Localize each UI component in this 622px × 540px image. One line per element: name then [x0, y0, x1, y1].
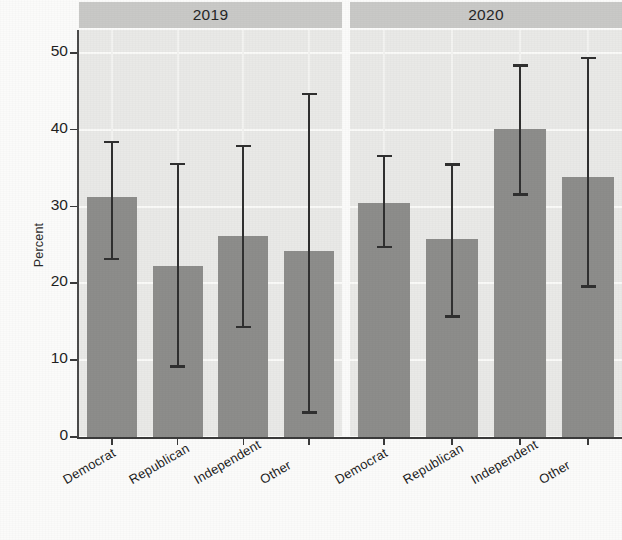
gridline-horizontal: [350, 52, 622, 54]
x-tick-mark: [111, 439, 113, 445]
x-category-label: Other: [536, 457, 573, 487]
y-tick-mark: [70, 436, 77, 438]
y-tick-label: 20: [22, 272, 68, 290]
error-bar-line: [242, 146, 244, 327]
y-tick-mark: [70, 129, 77, 131]
facet-panel-2019: [79, 30, 342, 438]
figure-panel-bar-chart: Percent 01020304050 20192020 DemocratRep…: [0, 0, 622, 540]
error-bar-line: [587, 58, 589, 287]
x-axis-line: [77, 437, 622, 439]
gridline-horizontal: [79, 52, 342, 54]
error-bar-line: [177, 164, 179, 367]
facet-strip-label-2020: 2020: [350, 2, 622, 28]
x-category-label: Independent: [192, 437, 264, 487]
error-bar-cap-lower: [236, 326, 251, 328]
error-bar-cap-upper: [581, 57, 596, 59]
error-bar-cap-lower: [445, 315, 460, 317]
error-bar-cap-upper: [236, 145, 251, 147]
error-bar-cap-upper: [170, 163, 185, 165]
facet-strip-label-2019: 2019: [79, 2, 342, 28]
error-bar-cap-upper: [104, 141, 119, 143]
error-bar-cap-lower: [104, 258, 119, 260]
error-bar-cap-lower: [377, 246, 392, 248]
x-category-label: Other: [257, 457, 294, 487]
y-tick-mark: [70, 206, 77, 208]
y-tick-label: 0: [22, 426, 68, 444]
x-tick-mark: [587, 439, 589, 445]
error-bar-line: [308, 94, 310, 413]
y-tick-label: 50: [22, 42, 68, 60]
gridline-horizontal: [350, 129, 622, 131]
error-bar-cap-upper: [377, 155, 392, 157]
gridline-horizontal: [79, 129, 342, 131]
x-category-label: Republican: [126, 440, 192, 487]
error-bar-cap-lower: [513, 193, 528, 195]
error-bar-line: [519, 65, 521, 194]
y-tick-label: 10: [22, 349, 68, 367]
x-tick-mark: [383, 439, 385, 445]
x-category-label: Independent: [468, 437, 540, 487]
y-tick-label: 40: [22, 119, 68, 137]
error-bar-line: [383, 156, 385, 247]
clipped-header-text: [470, 0, 610, 5]
error-bar-line: [451, 164, 453, 316]
x-category-label: Republican: [400, 440, 466, 487]
x-category-label: Democrat: [60, 445, 118, 487]
x-tick-mark: [308, 439, 310, 445]
error-bar-cap-lower: [302, 411, 317, 413]
y-tick-mark: [70, 282, 77, 284]
y-tick-label: 30: [22, 196, 68, 214]
facet-panel-2020: [350, 30, 622, 438]
error-bar-cap-upper: [445, 163, 460, 165]
error-bar-cap-lower: [170, 365, 185, 367]
error-bar-cap-upper: [513, 64, 528, 66]
x-category-label: Democrat: [332, 445, 390, 487]
y-tick-mark: [70, 52, 77, 54]
error-bar-line: [111, 142, 113, 259]
error-bar-cap-upper: [302, 93, 317, 95]
y-tick-mark: [70, 359, 77, 361]
error-bar-cap-lower: [581, 285, 596, 287]
